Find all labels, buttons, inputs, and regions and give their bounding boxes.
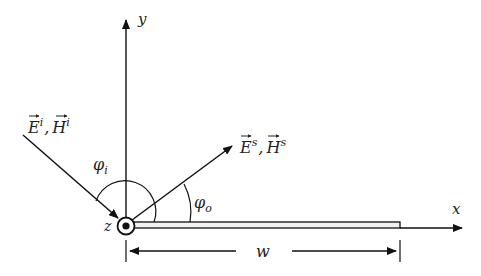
scattered-h-sup: s <box>280 136 286 149</box>
incident-h: H <box>51 118 67 137</box>
incident-e-sup: i <box>40 116 44 129</box>
scattered-field-label: Es,Hs <box>239 136 286 157</box>
scattered-ray <box>132 146 232 220</box>
z-axis-symbol-dot <box>122 222 129 229</box>
width-label: w <box>256 242 270 261</box>
scattered-sep: , <box>258 138 263 157</box>
y-axis-label: y <box>137 10 147 28</box>
incident-h-sup: i <box>66 116 70 129</box>
scattered-e: E <box>239 138 252 157</box>
incident-angle-label: φi <box>93 155 108 177</box>
scattering-diagram: y x z w Ei,Hi Es,Hs φi <box>0 0 481 276</box>
scattered-angle-arc <box>184 184 191 222</box>
svg-text:Ei,Hi: Ei,Hi <box>27 116 70 137</box>
strip <box>134 222 400 228</box>
scattered-angle-label: φo <box>194 193 212 215</box>
scattered-e-sup: s <box>252 136 258 149</box>
z-axis-label: z <box>103 218 112 234</box>
x-axis-label: x <box>452 200 461 218</box>
incident-sep: , <box>44 118 49 137</box>
svg-text:Es,Hs: Es,Hs <box>239 136 286 157</box>
incident-e: E <box>27 118 40 137</box>
incident-field-label: Ei,Hi <box>27 116 70 137</box>
scattered-h: H <box>265 138 281 157</box>
